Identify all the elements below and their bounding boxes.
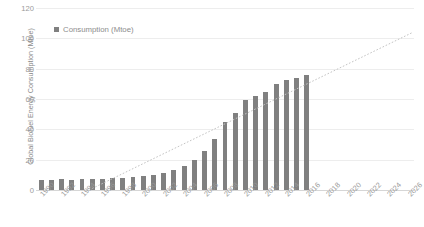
legend-label-consumption: Consumption (Mtoe): [63, 25, 134, 34]
y-axis-tick-40: 40: [0, 125, 34, 134]
y-axis-tick-80: 80: [0, 64, 34, 73]
x-axis-tick-labels: 1990199219941996199820002002200420062008…: [36, 192, 414, 227]
legend: Consumption (Mtoe): [54, 25, 134, 34]
trendline: [36, 8, 414, 190]
y-axis-tick-60: 60: [0, 95, 34, 104]
trendline-segment: [92, 32, 413, 188]
y-axis-tick-0: 0: [0, 186, 34, 195]
y-axis-tick-20: 20: [0, 155, 34, 164]
y-axis-tick-120: 120: [0, 4, 34, 13]
y-axis-tick-100: 100: [0, 34, 34, 43]
y-axis-tick-labels: 020406080100120: [0, 0, 34, 227]
legend-swatch-consumption: [54, 27, 59, 32]
